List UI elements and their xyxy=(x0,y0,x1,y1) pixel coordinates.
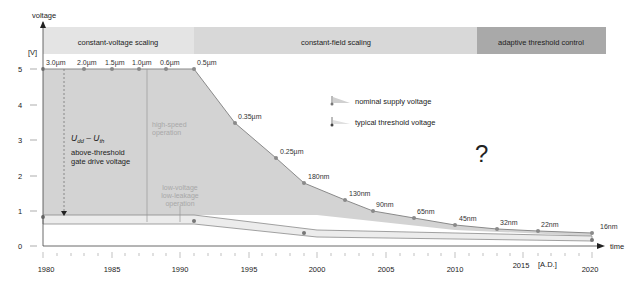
era3-label: adaptive threshold control xyxy=(498,38,584,47)
svg-text:2005: 2005 xyxy=(378,265,395,274)
y-axis-arrow xyxy=(40,21,46,28)
svg-text:1980: 1980 xyxy=(38,265,55,274)
x-tick-labels: 1980 1985 1990 1995 2000 2005 2010 2015 … xyxy=(38,261,599,274)
voltage-scaling-chart: constant-voltage scaling constant-field … xyxy=(0,0,635,291)
low-voltage-label-3: operation xyxy=(165,200,194,208)
x-tick-marks xyxy=(43,252,592,258)
svg-text:1: 1 xyxy=(18,207,22,216)
era-bands: constant-voltage scaling constant-field … xyxy=(43,27,606,54)
svg-text:90nm: 90nm xyxy=(376,201,394,208)
svg-text:0: 0 xyxy=(18,242,22,251)
svg-text:65nm: 65nm xyxy=(417,208,435,215)
svg-text:1.5µm: 1.5µm xyxy=(105,59,125,67)
svg-text:4: 4 xyxy=(18,101,22,110)
gate-drive-label-2: gate drive voltage xyxy=(71,157,130,166)
svg-text:45nm: 45nm xyxy=(459,215,477,222)
svg-text:0.5µm: 0.5µm xyxy=(197,59,217,67)
supply-legend-icon xyxy=(333,97,350,103)
svg-text:1985: 1985 xyxy=(104,265,121,274)
svg-text:16nm: 16nm xyxy=(600,223,618,230)
y-axis-label: voltage xyxy=(32,11,56,20)
svg-text:0.35µm: 0.35µm xyxy=(238,113,262,121)
gate-drive-label-1: above-threshold xyxy=(71,148,125,157)
x-axis-arrow xyxy=(597,243,605,249)
high-speed-label-1: high-speed xyxy=(152,121,187,129)
svg-text:3: 3 xyxy=(18,136,22,145)
svg-text:1995: 1995 xyxy=(241,265,258,274)
low-voltage-label-1: low-voltage xyxy=(162,184,198,192)
era1-label: constant-voltage scaling xyxy=(78,38,158,47)
low-voltage-label-2: low-leakage xyxy=(161,192,198,200)
svg-text:2015: 2015 xyxy=(513,261,530,270)
gate-drive-area xyxy=(43,69,592,236)
svg-text:2010: 2010 xyxy=(447,265,464,274)
era2-label: constant-field scaling xyxy=(301,38,371,47)
y-unit-label: [V] xyxy=(28,48,37,57)
svg-text:0.6µm: 0.6µm xyxy=(160,59,180,67)
legend-supply-label: nominal supply voltage xyxy=(355,97,431,106)
legend-threshold-label: typical threshold voltage xyxy=(355,118,435,127)
svg-text:1990: 1990 xyxy=(172,265,189,274)
svg-text:0.25µm: 0.25µm xyxy=(280,148,304,156)
x-axis-label: time xyxy=(610,242,624,251)
svg-text:2000: 2000 xyxy=(309,265,326,274)
legend: nominal supply voltage typical threshold… xyxy=(331,96,436,127)
high-speed-label-2: operation xyxy=(152,129,181,137)
svg-text:22nm: 22nm xyxy=(541,221,559,228)
threshold-legend-icon xyxy=(333,120,350,124)
svg-text:32nm: 32nm xyxy=(500,219,518,226)
svg-text:5: 5 xyxy=(18,65,22,74)
x-unit-label: [A.D.] xyxy=(538,260,557,269)
svg-text:2: 2 xyxy=(18,172,22,181)
y-ticks: 5 4 3 2 1 0 xyxy=(18,65,22,251)
svg-text:130nm: 130nm xyxy=(349,190,371,197)
svg-text:3.0µm: 3.0µm xyxy=(46,59,66,67)
svg-text:2020: 2020 xyxy=(582,265,599,274)
svg-text:2.0µm: 2.0µm xyxy=(77,59,97,67)
question-mark: ? xyxy=(475,140,488,167)
svg-text:180nm: 180nm xyxy=(308,173,330,180)
svg-text:1.0µm: 1.0µm xyxy=(132,59,152,67)
